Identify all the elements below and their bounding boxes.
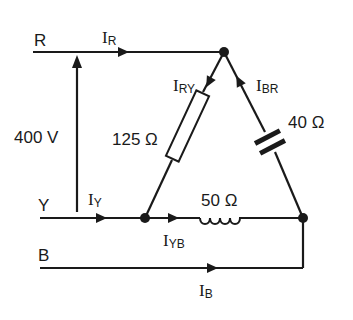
capacitor-40-ohm xyxy=(254,128,286,155)
branch-ry-wire-bottom xyxy=(145,160,172,218)
current-label-ibr: IBR xyxy=(256,76,279,96)
inductor-value-label: 50 Ω xyxy=(201,191,237,210)
inductor-50-ohm xyxy=(200,218,246,224)
branch-br-wire-bottom xyxy=(275,152,303,218)
line-y-label: Y xyxy=(38,196,49,215)
node-left xyxy=(140,213,150,223)
current-label-iyb: IYB xyxy=(163,231,185,251)
current-arrow-iyb xyxy=(168,213,179,223)
current-label-ir: IR xyxy=(102,28,117,48)
current-label-iy: IY xyxy=(88,190,102,210)
current-arrow-ibr xyxy=(232,73,246,87)
node-right xyxy=(298,213,308,223)
current-arrow-iy xyxy=(96,213,107,223)
node-top xyxy=(219,47,229,57)
current-arrow-ir xyxy=(118,47,129,57)
capacitor-value-label: 40 Ω xyxy=(288,113,324,132)
resistor-value-label: 125 Ω xyxy=(112,130,158,149)
resistor-125-ohm xyxy=(166,90,209,161)
voltage-arrow-head xyxy=(72,55,82,68)
line-r-label: R xyxy=(34,31,46,50)
line-b-label: B xyxy=(38,246,49,265)
current-arrow-ib xyxy=(207,263,218,273)
current-arrow-iry xyxy=(202,75,216,89)
supply-voltage-label: 400 V xyxy=(14,128,59,147)
current-label-ib: IB xyxy=(199,281,213,301)
delta-circuit-diagram: R Y B 400 V IR IY IYB IB IRY IBR 125 Ω 4… xyxy=(0,0,353,320)
branch-ry-wire-top xyxy=(203,52,224,92)
current-label-iry: IRY xyxy=(173,76,195,96)
